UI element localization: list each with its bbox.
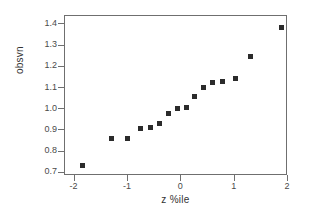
x-tick-label: 0 <box>160 182 200 191</box>
plot-area <box>64 15 287 175</box>
data-point <box>192 94 197 99</box>
data-point <box>109 136 114 141</box>
data-point <box>184 105 189 110</box>
y-tick-label: 1.4 <box>17 19 57 28</box>
scatter-plot-figure: obsvn z %ile 0.70.80.91.01.11.21.31.4 -2… <box>0 0 313 220</box>
x-tick-label: 1 <box>214 182 254 191</box>
data-point <box>233 76 238 81</box>
x-tick-label: -2 <box>54 182 94 191</box>
data-point <box>80 163 85 168</box>
data-point <box>125 136 130 141</box>
y-tick-label: 0.7 <box>17 167 57 176</box>
x-tick-label: 2 <box>267 182 307 191</box>
data-point <box>279 25 284 30</box>
y-tick-label: 1.2 <box>17 61 57 70</box>
y-tick-label: 0.9 <box>17 125 57 134</box>
data-point <box>166 111 171 116</box>
y-tick-label: 1.1 <box>17 83 57 92</box>
y-tick-label: 1.0 <box>17 104 57 113</box>
data-point <box>157 121 162 126</box>
y-tick-label: 1.3 <box>17 40 57 49</box>
data-point <box>138 126 143 131</box>
x-tick-label: -1 <box>107 182 147 191</box>
data-point <box>248 54 253 59</box>
data-point <box>175 106 180 111</box>
data-point <box>148 125 153 130</box>
data-point <box>210 80 215 85</box>
x-axis-title: z %ile <box>64 194 287 205</box>
data-point <box>201 85 206 90</box>
data-point <box>220 79 225 84</box>
y-tick-label: 0.8 <box>17 146 57 155</box>
